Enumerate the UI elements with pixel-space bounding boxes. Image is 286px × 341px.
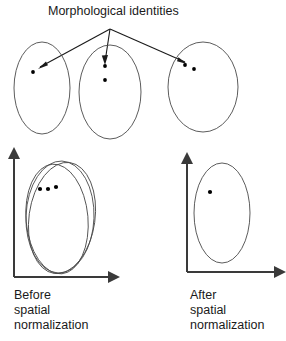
morphological-identity-dot (46, 187, 50, 191)
diagram-svg: Morphological identities (0, 0, 286, 341)
morphological-identity-dot (38, 187, 42, 191)
arrowhead-icon (38, 62, 48, 69)
subject-ellipse (79, 45, 141, 139)
unaligned-ellipse (21, 162, 92, 277)
morphological-identity-dot (31, 70, 35, 74)
subject-ellipse (168, 42, 238, 132)
identity-arrow-2 (102, 29, 110, 65)
caption-after-line-3: normalization (190, 318, 264, 332)
caption-after-line-2: spatial (190, 303, 226, 317)
unaligned-ellipse (22, 158, 103, 278)
caption-before-line-1: Before (14, 288, 51, 302)
caption-before: Before spatial normalization (14, 288, 88, 332)
morphological-identity-dot (103, 64, 107, 68)
plot-before-normalization (14, 157, 110, 278)
top-row-subject-spaces (14, 42, 238, 139)
subject-ellipse (14, 42, 70, 134)
subject-space-3 (168, 42, 238, 132)
caption-before-line-3: normalization (14, 318, 88, 332)
morphological-identity-dot (54, 185, 58, 189)
plot-after-normalization (187, 162, 276, 272)
morphological-identity-dot (208, 190, 212, 194)
morphological-identity-dot (183, 63, 187, 67)
figure-title: Morphological identities (48, 4, 179, 18)
figure-canvas: Morphological identities (0, 0, 286, 341)
caption-after: After spatial normalization (190, 288, 264, 332)
identity-arrow-1 (38, 29, 110, 69)
aligned-ellipse (194, 163, 250, 263)
morphological-identity-dot (103, 78, 107, 82)
caption-after-line-1: After (190, 288, 216, 302)
arrowhead-icon (102, 55, 108, 65)
arrowhead-icon (177, 57, 187, 64)
morphological-identity-dot (192, 67, 196, 71)
identity-arrows-group (38, 29, 187, 69)
subject-space-2 (79, 45, 141, 139)
caption-before-line-2: spatial (14, 303, 50, 317)
subject-space-1 (14, 42, 70, 134)
